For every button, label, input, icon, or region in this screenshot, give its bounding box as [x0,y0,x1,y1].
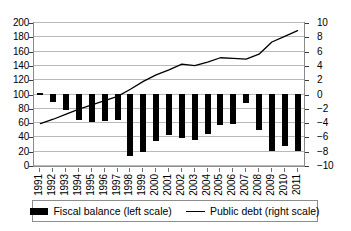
x-axis-tick [155,168,156,172]
right-axis-tick [305,137,309,138]
right-axis-tick-label: −10 [317,161,333,171]
right-axis-tick-label: 2 [317,75,322,85]
x-axis-tick-label: 2003 [189,174,199,196]
left-axis-tick-label: 140 [13,61,29,71]
right-axis-tick-label: −8 [317,147,328,157]
bar [230,94,236,124]
x-axis-tick-label: 2010 [279,174,289,196]
x-axis-tick [65,168,66,172]
x-axis-tick [207,168,208,172]
gridline [34,79,304,80]
bar [127,94,133,156]
left-axis-tick [29,23,33,24]
right-axis-tick-label: 10 [317,18,328,28]
chart-container: 020406080100120140160180200 −10−8−6−4−20… [0,0,351,231]
x-axis-tick [284,168,285,172]
x-axis-tick-label: 1999 [137,174,147,196]
right-axis-tick [305,152,309,153]
right-axis-tick-label: 0 [317,90,322,100]
x-axis-tick-label: 2005 [214,174,224,196]
x-axis-tick-label: 1998 [124,174,134,196]
x-axis-tick-label: 2004 [202,174,212,196]
x-axis-tick [194,168,195,172]
x-axis-tick-label: 2000 [150,174,160,196]
bar [179,94,185,138]
left-axis-tick-label: 60 [18,118,29,128]
right-axis-tick [305,95,309,96]
x-axis-tick [258,168,259,172]
bar [102,94,108,121]
right-axis-tick-label: −6 [317,132,328,142]
x-axis-tick-label: 2001 [163,174,173,196]
x-axis-tick-label: 1992 [47,174,57,196]
left-axis-tick [29,52,33,53]
x-axis-tick [219,168,220,172]
x-axis-tick-label: 1993 [60,174,70,196]
legend-item-fiscal-balance: Fiscal balance (left scale) [30,206,171,217]
x-axis-tick-label: 1991 [34,174,44,196]
x-axis-tick [168,168,169,172]
x-axis-tick [271,168,272,172]
x-axis-tick [39,168,40,172]
bar [243,94,249,103]
left-axis-tick-label: 180 [13,32,29,42]
bar [89,94,95,122]
right-axis: −10−8−6−4−20246810 [309,0,351,231]
bar [63,94,69,110]
right-axis-tick [305,123,309,124]
x-axis-tick [142,168,143,172]
bar [256,94,262,130]
left-axis-tick [29,166,33,167]
line-marker-icon [186,211,205,212]
chart-legend: Fiscal balance (left scale) Public debt … [32,200,318,222]
x-axis-tick-label: 2011 [292,174,302,195]
x-axis-tick [129,168,130,172]
left-axis-tick [29,109,33,110]
bar [76,94,82,120]
plot-area [33,22,305,167]
left-axis-tick-label: 80 [18,104,29,114]
x-axis-tick-label: 2006 [227,174,237,196]
left-axis-tick [29,80,33,81]
left-axis-tick-label: 20 [18,147,29,157]
bar [37,93,43,95]
left-axis-tick-label: 40 [18,132,29,142]
left-axis-tick-label: 160 [13,47,29,57]
x-axis-tick-label: 1995 [86,174,96,196]
right-axis-tick-label: 4 [317,61,322,71]
x-axis-tick [104,168,105,172]
gridline [34,22,304,23]
right-axis-tick-label: 8 [317,32,322,42]
x-axis-tick [78,168,79,172]
right-axis-tick-label: 6 [317,47,322,57]
x-axis-tick [52,168,53,172]
right-axis-tick [305,52,309,53]
bar [115,94,121,120]
right-axis-tick-label: −2 [317,104,328,114]
x-axis-tick-label: 1996 [99,174,109,196]
right-axis-tick [305,66,309,67]
right-axis-tick [305,166,309,167]
gridline [34,151,304,152]
right-axis-tick [305,109,309,110]
left-axis-tick-label: 120 [13,75,29,85]
x-axis-tick-label: 2007 [240,174,250,196]
right-axis-tick [305,80,309,81]
bar [140,94,146,152]
x-axis-tick [181,168,182,172]
bar [282,94,288,146]
right-axis-tick [305,37,309,38]
left-axis-tick-label: 200 [13,18,29,28]
left-axis-tick [29,37,33,38]
gridline [34,65,304,66]
gridline [34,136,304,137]
left-axis-tick [29,152,33,153]
right-axis-tick-label: −4 [317,118,328,128]
x-axis-tick-label: 2002 [176,174,186,196]
left-axis-tick [29,66,33,67]
bar-marker-icon [30,208,48,215]
bar [192,94,198,140]
x-axis-tick-label: 2008 [253,174,263,196]
left-axis: 020406080100120140160180200 [0,0,29,231]
x-axis-tick-label: 2009 [266,174,276,196]
